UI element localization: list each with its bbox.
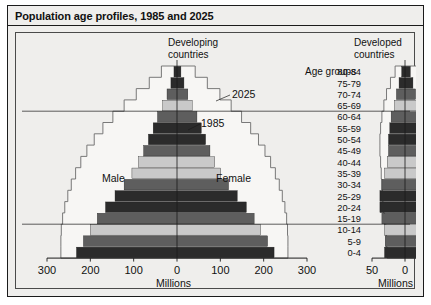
female-label: Female [216, 172, 251, 184]
chart-outer-frame: Population age profiles, 1985 and 2025 D… [7, 5, 424, 297]
age-group-label-35-39: 35-39 [321, 169, 361, 179]
bar-1985-15-19-panel0 [97, 213, 254, 224]
male-label: Male [102, 172, 125, 184]
age-group-label-65-69: 65-69 [321, 101, 361, 111]
age-group-label-20-24: 20-24 [321, 203, 361, 213]
bar-1985-40-44-panel0 [138, 157, 214, 168]
bar-1985-65-69-panel0 [163, 100, 192, 111]
age-group-label-45-49: 45-49 [321, 146, 361, 156]
age-group-label-55-59: 55-59 [321, 124, 361, 134]
bar-1985-25-29-panel1 [380, 191, 416, 202]
x-tick-label-panel1-0: 50 [366, 264, 378, 276]
bar-1985-80-84-panel1 [402, 66, 411, 77]
bar-1985-20-24-panel1 [380, 202, 416, 213]
bar-1985-50-54-panel1 [389, 134, 417, 145]
age-group-label-5-9: 5-9 [321, 237, 361, 247]
bar-1985-75-79-panel1 [399, 78, 413, 89]
age-group-label-15-19: 15-19 [321, 214, 361, 224]
bar-1985-80-84-panel0 [174, 66, 181, 77]
bar-1985-10-14-panel1 [385, 225, 416, 236]
axis-label-right-millions: Millions [378, 277, 413, 289]
bar-1985-45-49-panel1 [389, 145, 417, 156]
bar-1985-30-34-panel0 [124, 179, 228, 190]
chart-title: Population age profiles, 1985 and 2025 [8, 10, 214, 22]
age-group-label-10-14: 10-14 [321, 225, 361, 235]
bar-1985-25-29-panel0 [115, 191, 237, 202]
age-group-label-70-74: 70-74 [321, 90, 361, 100]
x-tick-label-panel0-0: 300 [38, 264, 56, 276]
x-tick-label-panel1-1: 0 [402, 264, 408, 276]
bar-1985-35-39-panel0 [132, 168, 221, 179]
bar-1985-0-4-panel1 [385, 247, 416, 258]
age-group-label-25-29: 25-29 [321, 192, 361, 202]
axis-label-left-millions: Millions [156, 277, 191, 289]
age-group-label-40-44: 40-44 [321, 158, 361, 168]
bar-1985-40-44-panel1 [387, 157, 416, 168]
annotation-1985: 1985 [201, 117, 224, 129]
bar-1985-10-14-panel0 [90, 225, 260, 236]
age-group-label-0-4: 0-4 [321, 248, 361, 258]
bar-1985-70-74-panel0 [167, 89, 188, 100]
bar-1985-0-4-panel0 [76, 247, 274, 258]
age-group-label-75-79: 75-79 [321, 79, 361, 89]
annotation-2025: 2025 [232, 88, 255, 100]
title-bar: Population age profiles, 1985 and 2025 [8, 6, 423, 26]
x-tick-label-panel0-1: 200 [81, 264, 99, 276]
bar-1985-60-64-panel1 [391, 112, 416, 123]
bar-1985-30-34-panel1 [382, 179, 416, 190]
bar-1985-5-9-panel0 [83, 236, 267, 247]
bar-1985-15-19-panel1 [382, 213, 416, 224]
x-tick-label-panel0-6: 300 [298, 264, 316, 276]
x-tick-label-panel0-5: 200 [254, 264, 272, 276]
x-tick-label-panel0-4: 100 [211, 264, 229, 276]
bar-1985-55-59-panel1 [390, 123, 416, 134]
age-group-label-80-84: 80-84 [321, 67, 361, 77]
x-tick-label-panel0-3: 0 [174, 264, 180, 276]
bar-1985-75-79-panel0 [171, 78, 184, 89]
figure-root: Population age profiles, 1985 and 2025 D… [0, 0, 431, 305]
age-group-label-50-54: 50-54 [321, 135, 361, 145]
bar-1985-20-24-panel0 [106, 202, 247, 213]
age-group-label-60-64: 60-64 [321, 112, 361, 122]
bar-1985-70-74-panel1 [396, 89, 415, 100]
x-tick-label-panel0-2: 100 [124, 264, 142, 276]
age-group-label-30-34: 30-34 [321, 180, 361, 190]
plot-frame: Developing countries Developed countries… [15, 32, 415, 289]
bar-1985-5-9-panel1 [385, 236, 416, 247]
bar-1985-35-39-panel1 [385, 168, 416, 179]
